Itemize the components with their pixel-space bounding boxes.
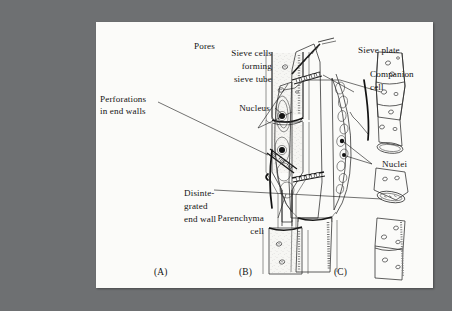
leader-sieve-plate — [323, 75, 354, 92]
label-companion-line2: cell — [370, 82, 384, 92]
label-sieve-plate: Sieve plate — [358, 45, 400, 55]
pore-mark — [394, 176, 399, 180]
parenchyma-bracket-tip — [266, 174, 268, 180]
label-sieve-cells-line1: Sieve cells — [231, 48, 272, 58]
label-sieve-cells-line3: sieve tube — [234, 74, 272, 84]
tube-top-flap2 — [322, 41, 336, 44]
leader-nuclei-2 — [346, 156, 372, 164]
segment-b-lower-2 — [375, 246, 403, 280]
pore-mark — [379, 125, 385, 130]
tube-top-flap — [318, 38, 334, 42]
sieve-pore — [306, 75, 310, 80]
segment-b-top-lower — [378, 117, 402, 146]
pore-mark — [393, 127, 397, 130]
label-perforations-line1: Perforations — [100, 94, 147, 104]
labels-group: Pores Perforations in end walls Disinte-… — [100, 41, 414, 278]
label-pores: Pores — [194, 41, 215, 51]
nucleus-left-lower — [279, 147, 285, 153]
right-cell-vacuoles — [334, 81, 349, 194]
pore-mark — [395, 240, 400, 244]
sieve-pore — [316, 72, 320, 77]
nucleus-right-2 — [342, 153, 346, 157]
caption-b: (B) — [239, 267, 252, 278]
pore-mark — [393, 226, 398, 231]
label-companion-line1: Companion — [370, 69, 414, 79]
right-cell-column — [332, 74, 351, 214]
pore-mark — [394, 92, 398, 95]
label-nucleus: Nucleus — [239, 103, 270, 113]
sieve-pore — [296, 176, 300, 180]
segment-b-cross-wall-2 — [377, 104, 402, 106]
sieve-pore — [316, 172, 320, 176]
caption-c: (C) — [334, 267, 347, 278]
label-nuclei: Nuclei — [382, 159, 407, 169]
sieve-tube-lower-body — [296, 218, 332, 272]
open-end-wall-oval — [377, 141, 404, 154]
segment-b-middle — [374, 168, 408, 200]
pore-mark — [388, 110, 394, 115]
sieve-tube-lower-crosswall — [298, 217, 332, 220]
label-sieve-cells-line2: forming — [242, 61, 273, 71]
companion-cell-bracket — [364, 80, 369, 140]
label-parenchyma-line2: cell — [250, 226, 264, 236]
lower-junction-left — [292, 212, 298, 222]
label-parenchyma-line1: Parenchyma — [218, 213, 264, 223]
label-disintegrated-line3: end wall — [184, 214, 217, 224]
caption-a: (A) — [154, 267, 167, 278]
sieve-pore — [306, 174, 310, 178]
sieve-pore — [311, 74, 315, 79]
parenchyma-bracket — [270, 150, 272, 208]
illustration-plate: Pores Perforations in end walls Disinte-… — [96, 22, 433, 288]
pore-mark — [385, 60, 391, 65]
pore-mark — [397, 57, 400, 59]
label-perforations-line2: in end walls — [100, 106, 146, 116]
leader-companion-cell — [358, 122, 368, 134]
sieve-pore — [301, 175, 305, 179]
pore-mark — [395, 265, 400, 269]
label-disintegrated-line2: grated — [184, 201, 208, 211]
pore-mark — [381, 235, 387, 240]
label-disintegrated-line1: Disinte- — [184, 188, 215, 198]
pore-mark — [382, 258, 388, 263]
sieve-pore — [311, 173, 315, 177]
sieve-plate-lower — [292, 172, 325, 182]
sieve-tube-lower-texture — [328, 222, 329, 270]
leader-companion-cell-2 — [350, 112, 358, 122]
nucleus-right-1 — [340, 139, 344, 143]
pore-mark — [382, 177, 387, 181]
figure-svg: Pores Perforations in end walls Disinte-… — [96, 22, 433, 288]
vessel-upper-stipple — [273, 53, 302, 115]
segment-b-top-right — [400, 53, 405, 120]
